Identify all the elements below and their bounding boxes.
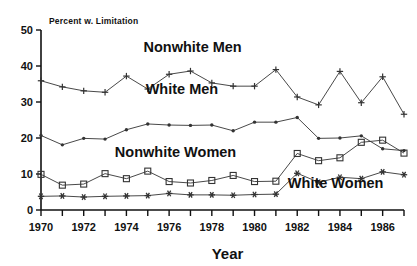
marker-dot <box>82 137 85 140</box>
marker-dot <box>360 134 363 137</box>
marker-asterisk <box>168 192 170 194</box>
marker-asterisk <box>189 194 191 196</box>
y-tick-label: 50 <box>21 24 33 36</box>
x-tick-label: 1978 <box>200 221 224 233</box>
marker-dot <box>381 147 384 150</box>
marker-dot <box>231 129 234 132</box>
series-label-nonwhite-men: Nonwhite Men <box>143 39 241 55</box>
marker-asterisk <box>104 195 106 197</box>
y-tick-label: 20 <box>21 132 33 144</box>
y-axis-title: Percent w. Limitation <box>49 16 138 26</box>
marker-asterisk <box>125 195 127 197</box>
series-label-white-men: White Men <box>146 81 219 97</box>
y-tick-label: 10 <box>21 168 33 180</box>
marker-asterisk <box>211 194 213 196</box>
series-label-nonwhite-women: Nonwhite Women <box>115 144 236 160</box>
marker-asterisk <box>275 193 277 195</box>
marker-dot <box>39 134 42 137</box>
marker-dot <box>103 137 106 140</box>
marker-dot <box>253 120 256 123</box>
x-tick-label: 1974 <box>114 221 139 233</box>
marker-dot <box>189 124 192 127</box>
marker-asterisk <box>253 193 255 195</box>
marker-dot <box>210 123 213 126</box>
line-chart-plot: 0102030405019701972197419761978198019821… <box>0 0 417 266</box>
series-line <box>41 70 404 115</box>
x-tick-label: 1984 <box>328 221 353 233</box>
x-tick-label: 1980 <box>242 221 266 233</box>
marker-dot <box>125 128 128 131</box>
marker-asterisk <box>147 195 149 197</box>
x-tick-label: 1976 <box>157 221 181 233</box>
series-nonwhite-men <box>38 66 407 117</box>
marker-dot <box>274 120 277 123</box>
x-tick-label: 1972 <box>71 221 95 233</box>
marker-asterisk <box>403 174 405 176</box>
x-tick-label: 1970 <box>29 221 53 233</box>
x-tick-label: 1986 <box>370 221 394 233</box>
marker-dot <box>167 123 170 126</box>
x-axis-title: Year <box>212 245 244 262</box>
marker-dot <box>296 116 299 119</box>
marker-asterisk <box>61 195 63 197</box>
chart-container: 0102030405019701972197419761978198019821… <box>0 0 417 266</box>
marker-dot <box>146 122 149 125</box>
marker-dot <box>338 136 341 139</box>
x-tick-label: 1982 <box>285 221 309 233</box>
marker-asterisk <box>232 194 234 196</box>
marker-asterisk <box>382 171 384 173</box>
marker-dot <box>61 143 64 146</box>
marker-dot <box>317 137 320 140</box>
y-tick-label: 30 <box>21 96 33 108</box>
y-tick-label: 40 <box>21 60 33 72</box>
marker-asterisk <box>83 196 85 198</box>
marker-asterisk <box>40 195 42 197</box>
y-tick-label: 0 <box>27 204 33 216</box>
series-label-white-women: White Women <box>288 175 384 191</box>
